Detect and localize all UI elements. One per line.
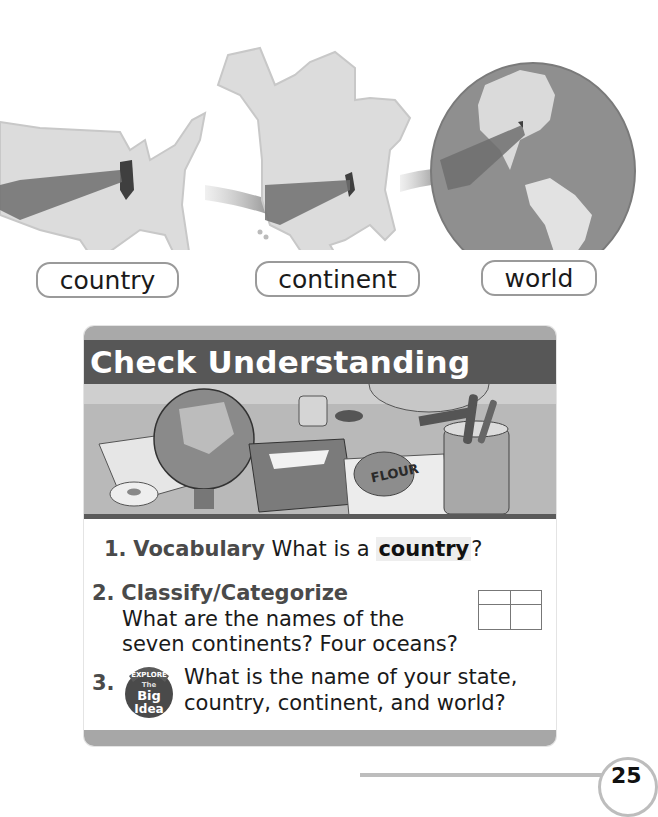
card-bottom-frame xyxy=(84,730,556,746)
kitchen-table-illustration: FLOUR xyxy=(84,384,556,516)
question-2-term: Classify/Categorize xyxy=(121,581,348,605)
illustration-divider xyxy=(84,514,556,519)
svg-text:Big: Big xyxy=(137,688,161,703)
question-1-term: Vocabulary xyxy=(133,537,265,561)
question-3-number: 3. xyxy=(92,670,115,696)
question-1-text: What is a xyxy=(272,537,377,561)
label-country: country xyxy=(36,262,179,298)
question-1: 1. Vocabulary What is a country? xyxy=(104,536,482,562)
label-country-text: country xyxy=(60,266,156,295)
question-1-punct: ? xyxy=(471,537,482,561)
svg-text:EXPLORE: EXPLORE xyxy=(131,671,167,679)
question-2-line-2: seven continents? Four oceans? xyxy=(122,631,458,657)
vocab-word-country: country xyxy=(376,537,471,561)
card-title: Check Understanding xyxy=(84,340,556,384)
north-america-map xyxy=(218,48,410,250)
label-continent-text: continent xyxy=(278,265,397,294)
question-2-number: 2. xyxy=(92,581,115,605)
question-2-line-1: What are the names of the xyxy=(122,606,404,632)
question-1-number: 1. xyxy=(104,537,127,561)
united-states-map xyxy=(0,113,205,250)
globe-map xyxy=(431,63,635,250)
page-number: 25 xyxy=(611,765,642,787)
card-top-frame xyxy=(84,326,556,340)
label-world-text: world xyxy=(505,264,574,293)
question-2: 2. Classify/Categorize xyxy=(92,580,348,606)
maps-illustration xyxy=(0,0,643,250)
explore-big-idea-badge-icon: EXPLORE The Big Idea xyxy=(123,660,175,720)
graphic-organizer-chart-icon xyxy=(478,590,542,630)
svg-text:Idea: Idea xyxy=(134,702,163,716)
label-world: world xyxy=(481,260,597,296)
question-3-line-1: What is the name of your state, xyxy=(184,664,517,690)
label-continent: continent xyxy=(255,261,420,297)
question-3-line-2: country, continent, and world? xyxy=(184,690,506,716)
